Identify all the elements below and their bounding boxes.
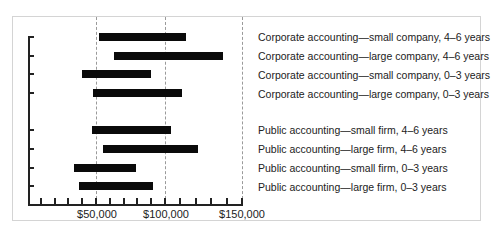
range-bar (93, 89, 181, 97)
x-tick (226, 198, 228, 205)
row-label: Corporate accounting—large company, 0–3 … (258, 88, 489, 100)
x-tick (164, 198, 166, 205)
range-bar (99, 33, 186, 41)
y-tick (28, 167, 34, 169)
x-tick (136, 198, 138, 205)
row-label: Public accounting—large firm, 4–6 years (258, 143, 447, 155)
row-label: Public accounting—large firm, 0–3 years (258, 181, 447, 193)
row-label: Public accounting—small firm, 0–3 years (258, 162, 448, 174)
range-bar (103, 145, 198, 153)
y-tick (28, 55, 34, 57)
x-tick (195, 198, 197, 205)
row-label: Corporate accounting—small company, 0–3 … (258, 69, 490, 81)
x-tick (150, 198, 152, 205)
gridline-150000 (242, 17, 243, 204)
range-bar (82, 70, 151, 78)
y-tick (28, 36, 34, 38)
row-label: Public accounting—small firm, 4–6 years (258, 124, 448, 136)
range-bar (92, 126, 171, 134)
x-tick (210, 198, 212, 205)
y-tick (28, 148, 34, 150)
x-tick (241, 198, 243, 205)
gridline-100000 (165, 17, 166, 204)
range-bar (114, 52, 223, 60)
x-tick-label-150000: $150,000 (219, 208, 265, 220)
range-bar (74, 164, 136, 172)
y-tick (28, 92, 34, 94)
y-tick (28, 185, 34, 187)
y-axis (28, 36, 30, 206)
x-tick (109, 198, 111, 205)
x-tick-label-100000: $100,000 (143, 208, 189, 220)
x-tick-label-50000: $50,000 (77, 208, 117, 220)
row-label: Corporate accounting—small company, 4–6 … (258, 31, 490, 43)
x-tick (54, 198, 56, 205)
range-bar (79, 182, 152, 190)
x-tick (40, 198, 42, 205)
y-tick (28, 73, 34, 75)
gridline-50000 (96, 17, 97, 204)
x-tick (67, 198, 69, 205)
x-tick (123, 198, 125, 205)
row-label: Corporate accounting—large company, 4–6 … (258, 50, 489, 62)
x-tick (95, 198, 97, 205)
y-tick (28, 129, 34, 131)
x-tick (179, 198, 181, 205)
x-tick (81, 198, 83, 205)
